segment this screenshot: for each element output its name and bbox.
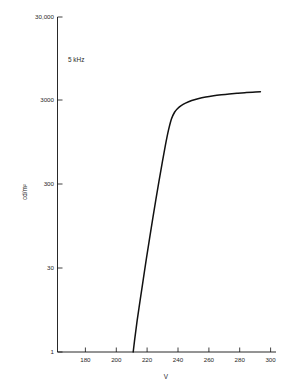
y-tick-label-300: 300 (44, 180, 55, 187)
y-tick-label-30000: 30,000 (35, 13, 54, 20)
x-tick-label-180: 180 (80, 356, 91, 363)
y-tick-label-30: 30 (47, 264, 54, 271)
luminance-voltage-chart: 30,000 3000 300 30 1 180 200 220 240 260… (0, 0, 290, 390)
y-tick-label-3000: 3000 (40, 96, 54, 103)
x-tick-label-200: 200 (111, 356, 122, 363)
x-tick-label-240: 240 (173, 356, 184, 363)
x-axis-title: V (164, 373, 169, 380)
x-tick-label-220: 220 (142, 356, 153, 363)
frequency-annotation: 5 kHz (68, 56, 84, 63)
chart-background (0, 0, 290, 390)
x-tick-label-300: 300 (265, 356, 276, 363)
x-tick-label-260: 260 (204, 356, 215, 363)
y-tick-label-1: 1 (51, 348, 55, 355)
chart-figure: 30,000 3000 300 30 1 180 200 220 240 260… (0, 0, 290, 390)
x-tick-label-280: 280 (235, 356, 246, 363)
y-axis-title: cd/m² (21, 184, 28, 200)
